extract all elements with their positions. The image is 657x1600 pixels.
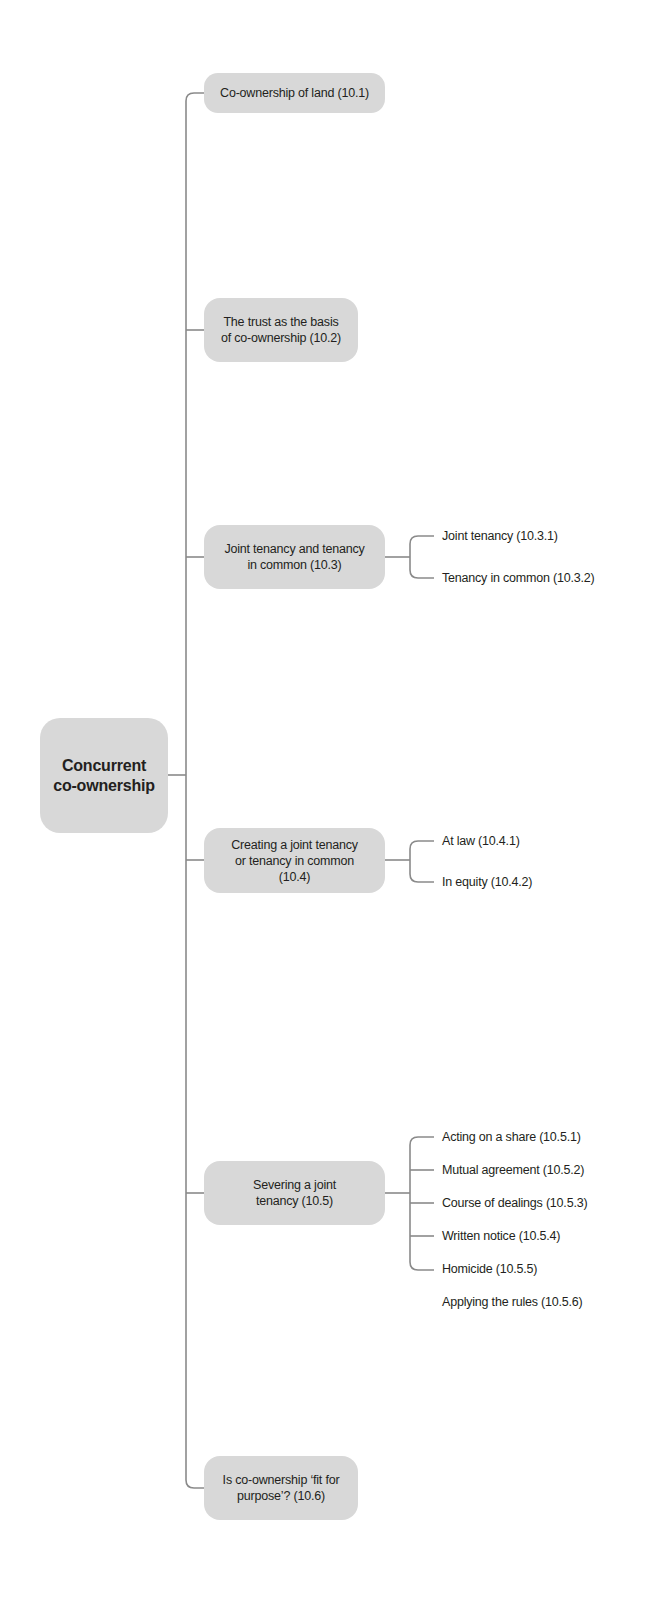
branch-label: Creating a joint tenancy or tenancy in c… [230,837,360,885]
root-label-line2: co-ownership [53,776,155,796]
leaf-10-5-5: Homicide (10.5.5) [442,1261,537,1277]
root-node: Concurrent co-ownership [40,718,168,833]
leaf-10-5-1: Acting on a share (10.5.1) [442,1129,581,1145]
leaf-10-5-3: Course of dealings (10.5.3) [442,1195,587,1211]
root-label-line1: Concurrent [53,756,155,776]
branch-node-10-3: Joint tenancy and tenancy in common (10.… [204,525,385,589]
leaf-10-4-1: At law (10.4.1) [442,833,520,849]
leaf-10-3-2: Tenancy in common (10.3.2) [442,570,595,586]
branch-node-10-5: Severing a joint tenancy (10.5) [204,1161,385,1225]
branch-node-10-1: Co-ownership of land (10.1) [204,73,385,113]
branch-label: The trust as the basis of co-ownership (… [217,314,345,346]
branch-label: Joint tenancy and tenancy in common (10.… [220,541,370,573]
leaf-10-5-4: Written notice (10.5.4) [442,1228,560,1244]
leaf-10-4-2: In equity (10.4.2) [442,874,532,890]
branch-label: Severing a joint tenancy (10.5) [240,1177,350,1209]
leaf-10-5-2: Mutual agreement (10.5.2) [442,1162,584,1178]
branch-label: Co-ownership of land (10.1) [220,85,369,101]
leaf-10-3-1: Joint tenancy (10.3.1) [442,528,558,544]
branch-node-10-6: Is co-ownership ‘fit for purpose’? (10.6… [204,1456,358,1520]
branch-label: Is co-ownership ‘fit for purpose’? (10.6… [212,1472,350,1504]
branch-node-10-2: The trust as the basis of co-ownership (… [204,298,358,362]
branch-node-10-4: Creating a joint tenancy or tenancy in c… [204,828,385,893]
leaf-10-5-6: Applying the rules (10.5.6) [442,1294,583,1310]
